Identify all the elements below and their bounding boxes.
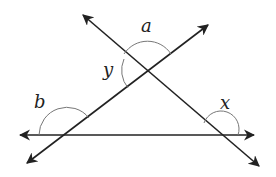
angle-a-label: a [141,17,152,35]
angle-y-arc [122,59,128,88]
angle-y-label: y [103,61,113,79]
geometry-diagram: a y b x [0,0,276,177]
angle-x-label: x [220,94,230,112]
rising-line [27,25,208,163]
angle-a-arc [124,41,171,54]
falling-line [83,15,259,166]
angle-b-label: b [34,93,46,111]
